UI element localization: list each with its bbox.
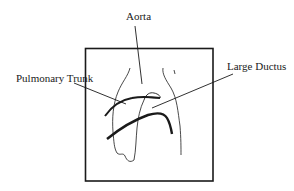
pulmonary-trunk-label: Pulmonary Trunk	[16, 73, 93, 84]
pulmonary-trunk-leader	[74, 83, 126, 104]
left-vessel-outline	[113, 68, 144, 161]
large-ductus-arc	[107, 113, 172, 139]
right-vessel-outline	[163, 68, 181, 155]
aorta-label: Aorta	[126, 11, 151, 22]
diagram-canvas	[0, 0, 294, 191]
large-ductus-label: Large Ductus	[227, 61, 286, 72]
right-vessel-tick	[174, 70, 175, 74]
large-ductus-leader	[152, 74, 233, 108]
aorta-leader	[135, 26, 142, 84]
